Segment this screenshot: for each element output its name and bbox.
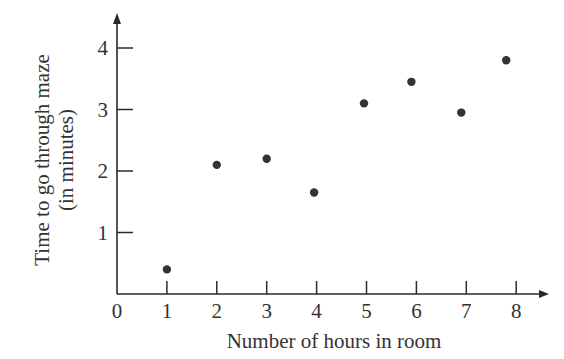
data-point xyxy=(407,78,415,86)
data-point xyxy=(310,188,318,196)
data-point xyxy=(360,99,368,107)
data-point xyxy=(502,56,510,64)
x-axis-arrow-icon xyxy=(539,290,549,298)
x-tick-label: 8 xyxy=(511,299,522,323)
y-axis-title-line1: Time to go through maze xyxy=(30,54,54,266)
x-tick-label: 0 xyxy=(112,299,123,323)
x-axis-title: Number of hours in room xyxy=(227,329,442,353)
y-tick-label: 4 xyxy=(98,36,109,60)
x-tick-label: 6 xyxy=(411,299,422,323)
y-tick-label: 3 xyxy=(98,98,109,122)
x-tick-label: 7 xyxy=(461,299,472,323)
axes: 0123456781234 xyxy=(98,13,550,323)
data-points xyxy=(163,56,511,273)
x-tick-label: 4 xyxy=(311,299,322,323)
y-axis-title-line2: (in minutes) xyxy=(54,109,78,211)
data-point xyxy=(163,265,171,273)
y-tick-label: 1 xyxy=(98,221,109,245)
x-tick-label: 5 xyxy=(361,299,372,323)
scatter-chart: 0123456781234 Time to go through maze (i… xyxy=(0,0,564,359)
y-tick-label: 2 xyxy=(98,159,109,183)
y-axis-arrow-icon xyxy=(113,13,121,24)
data-point xyxy=(263,155,271,163)
x-tick-label: 1 xyxy=(162,299,173,323)
x-tick-label: 3 xyxy=(261,299,272,323)
x-tick-label: 2 xyxy=(212,299,223,323)
data-point xyxy=(457,108,465,116)
data-point xyxy=(213,161,221,169)
